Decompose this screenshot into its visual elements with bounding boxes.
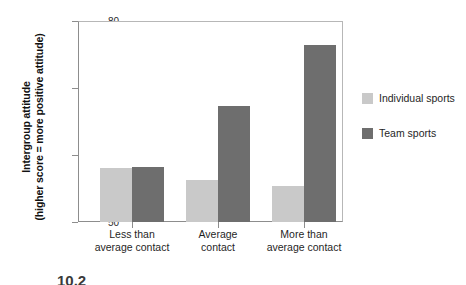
y-axis-title-line-2: (higher score = more positive attitude)	[33, 33, 46, 220]
legend-swatch-individual-sports	[362, 93, 373, 104]
bar-team-sports-less-than-average-contact	[132, 167, 164, 222]
bar-chart-figure: Intergroup attitude (higher score = more…	[0, 0, 466, 285]
y-axis-title: Intergroup attitude (higher score = more…	[16, 22, 50, 232]
legend-item-team-sports: Team sports	[362, 127, 466, 139]
legend-item-individual-sports: Individual sports	[362, 92, 466, 104]
bar-team-sports-average-contact	[218, 106, 250, 222]
figure-number: 10.2	[57, 272, 86, 285]
y-tickmark-50	[72, 222, 78, 223]
x-axis-label-line-1: More than	[244, 228, 364, 241]
x-axis-label-line-2: average contact	[244, 241, 364, 254]
legend-label-team-sports: Team sports	[379, 127, 436, 139]
x-axis-label-more-than-average-contact: More than average contact	[244, 228, 364, 254]
bar-individual-sports-more-than-average-contact	[272, 186, 304, 222]
legend-label-individual-sports: Individual sports	[379, 92, 455, 104]
bar-individual-sports-average-contact	[186, 180, 218, 222]
y-axis-title-line-1: Intergroup attitude	[20, 81, 33, 172]
bar-team-sports-more-than-average-contact	[304, 45, 336, 222]
bar-individual-sports-less-than-average-contact	[100, 168, 132, 222]
legend-swatch-team-sports	[362, 128, 373, 139]
chart-legend: Individual sports Team sports	[362, 92, 466, 162]
bars-layer	[79, 21, 342, 222]
